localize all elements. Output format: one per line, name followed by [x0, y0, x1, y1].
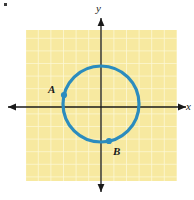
point-b-marker [106, 138, 112, 144]
x-axis-label: x [186, 101, 191, 112]
coordinate-plane-figure: y x A B [0, 0, 194, 200]
y-axis-label: y [96, 3, 101, 14]
y-axis-arrow-down [98, 184, 105, 192]
x-axis-arrow-left [8, 104, 16, 111]
figure-canvas [0, 0, 194, 200]
x-axis-arrow-right [178, 104, 186, 111]
point-b-label: B [113, 146, 120, 157]
point-a-marker [61, 92, 67, 98]
y-axis-arrow-up [98, 18, 105, 26]
point-a-label: A [48, 84, 55, 95]
